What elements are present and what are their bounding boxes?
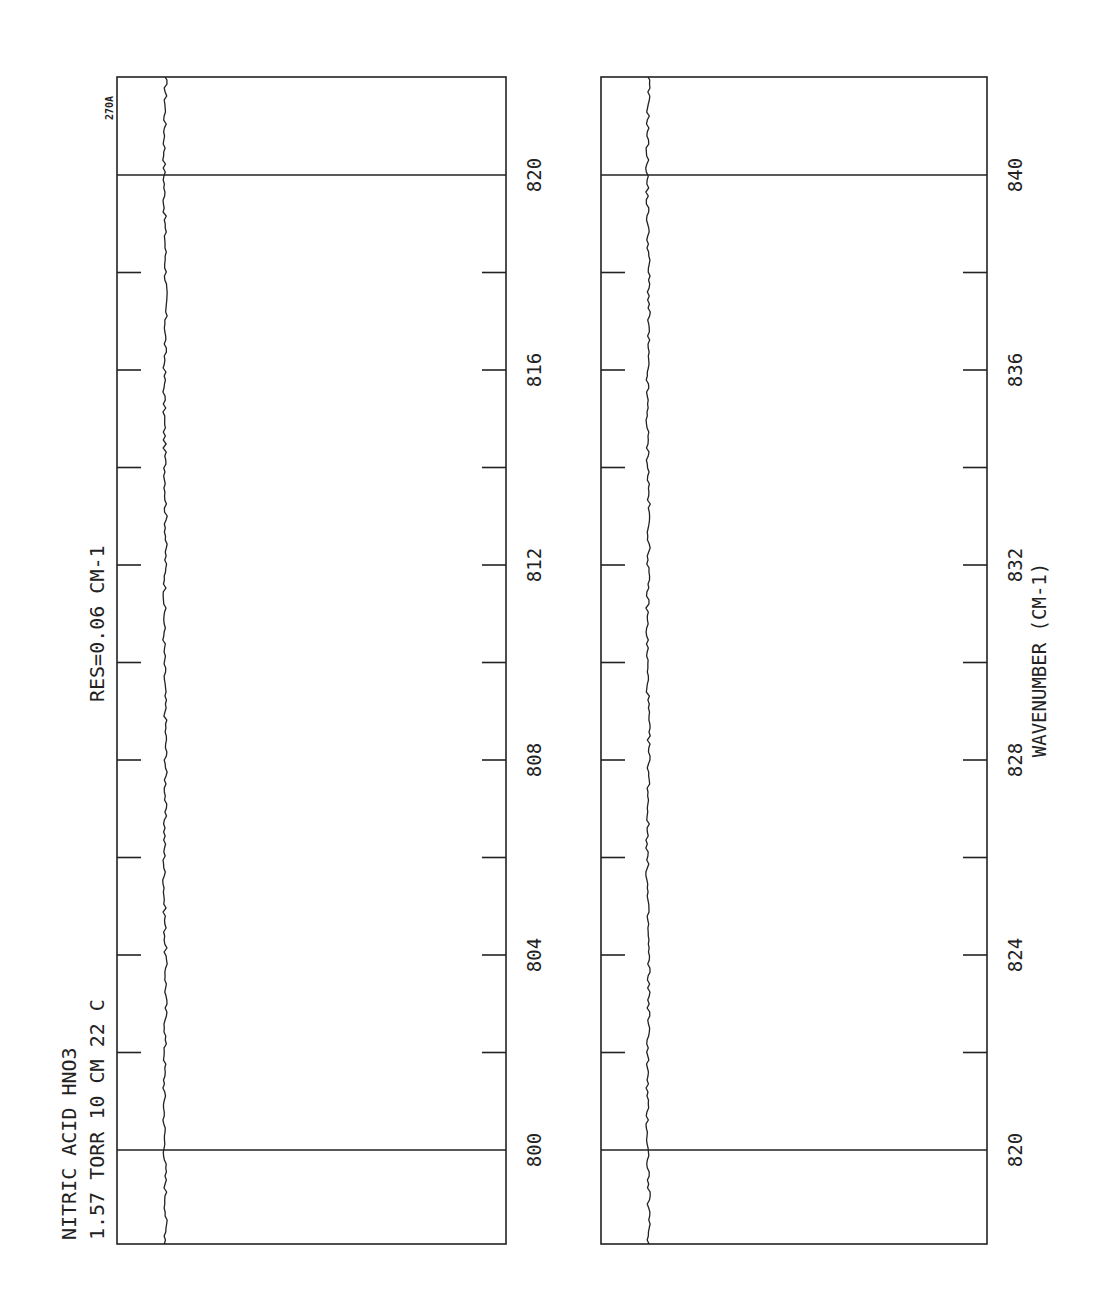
spectrum-figure: 800 804 808 812 816 820 820 824 828 832 … [0, 0, 1112, 1313]
right-panel-frame [601, 77, 987, 1244]
title-line-2: 1.57 TORR 10 CM 22 C [85, 999, 109, 1240]
left-panel [117, 77, 506, 1244]
left-ticks [117, 273, 506, 1053]
right-tick-label-832: 832 [1004, 548, 1026, 582]
right-tick-label-824: 824 [1004, 938, 1026, 972]
right-tick-labels: 820 824 828 832 836 840 [1004, 158, 1026, 1167]
left-tick-label-820: 820 [523, 158, 545, 192]
resolution-label: RES=0.06 CM-1 [85, 545, 109, 702]
left-tick-label-800: 800 [523, 1133, 545, 1167]
left-panel-frame [117, 77, 506, 1244]
right-ticks [601, 273, 987, 1053]
right-panel [601, 77, 987, 1244]
plate-id: 270A [104, 96, 115, 120]
right-tick-label-820: 820 [1004, 1133, 1026, 1167]
left-tick-label-808: 808 [523, 743, 545, 777]
left-tick-label-804: 804 [523, 938, 545, 972]
right-spectrum-trace [646, 77, 651, 1244]
right-tick-label-840: 840 [1004, 158, 1026, 192]
right-tick-label-828: 828 [1004, 743, 1026, 777]
title-line-1: NITRIC ACID HNO3 [57, 1047, 81, 1240]
x-axis-label: WAVENUMBER (CM-1) [1028, 563, 1050, 757]
left-spectrum-trace [163, 77, 168, 1244]
right-tick-label-836: 836 [1004, 353, 1026, 387]
left-tick-labels: 800 804 808 812 816 820 [523, 158, 545, 1167]
left-tick-label-816: 816 [523, 353, 545, 387]
left-tick-label-812: 812 [523, 548, 545, 582]
